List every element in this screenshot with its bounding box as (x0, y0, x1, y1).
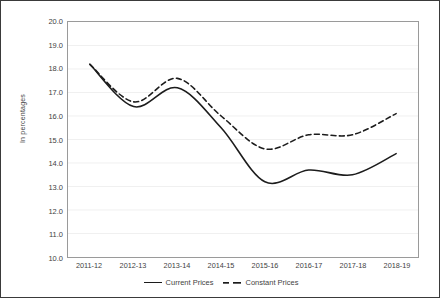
series-paths (90, 64, 396, 183)
series-line-current-prices (90, 64, 396, 183)
chart-container: In percentages 20.019.018.017.016.015.01… (0, 0, 440, 298)
legend-swatch-solid-line-icon (144, 282, 162, 283)
y-axis-tick-label: 10.0 (23, 254, 63, 263)
plot-area (67, 21, 419, 258)
chart-legend: Current PricesConstant Prices (5, 278, 437, 287)
legend-label: Current Prices (166, 278, 214, 287)
y-axis-tick-labels: 20.019.018.017.016.015.014.013.012.011.0… (23, 5, 63, 295)
legend-item[interactable]: Constant Prices (223, 278, 298, 287)
y-axis-tick-label: 16.0 (23, 111, 63, 120)
x-axis-tick-labels: 2011-122012-132013-142014-152015-162016-… (67, 261, 419, 275)
gridlines (68, 46, 418, 234)
y-axis-tick-label: 20.0 (23, 17, 63, 26)
y-axis-tick-label: 17.0 (23, 88, 63, 97)
y-axis-tick-label: 18.0 (23, 64, 63, 73)
y-axis-tick-label: 12.0 (23, 206, 63, 215)
y-axis-tick-label: 15.0 (23, 135, 63, 144)
y-axis-tick-label: 11.0 (23, 230, 63, 239)
y-axis-tick-label: 19.0 (23, 40, 63, 49)
legend-swatch-dashed-line-icon (223, 282, 241, 284)
legend-item[interactable]: Current Prices (144, 278, 214, 287)
legend-label: Constant Prices (245, 278, 298, 287)
y-axis-tick-label: 13.0 (23, 182, 63, 191)
chart-inner-frame: In percentages 20.019.018.017.016.015.01… (5, 5, 437, 295)
chart-svg (68, 22, 418, 257)
x-axis-tick-label: 2018-19 (367, 261, 427, 270)
y-axis-tick-label: 14.0 (23, 159, 63, 168)
